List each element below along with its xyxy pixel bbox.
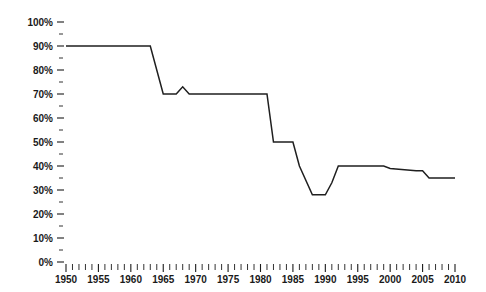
- y-axis-tick-label: 80%: [33, 65, 53, 76]
- x-axis-tick-label: 2005: [411, 274, 434, 285]
- y-axis-tick-label: 70%: [33, 89, 53, 100]
- y-axis-tick-label: 40%: [33, 161, 53, 172]
- x-axis-tick-label: 1990: [314, 274, 337, 285]
- x-axis-tick-label: 2010: [444, 274, 467, 285]
- y-axis-tick-labels: 100%90%80%70%60%50%40%30%20%10%0%: [27, 17, 53, 268]
- y-axis-tick-label: 30%: [33, 185, 53, 196]
- x-axis-tick-label: 1955: [87, 274, 110, 285]
- y-axis-tick-label: 60%: [33, 113, 53, 124]
- x-axis-tick-label: 1985: [282, 274, 305, 285]
- y-axis-tick-label: 20%: [33, 209, 53, 220]
- line-chart: 100%90%80%70%60%50%40%30%20%10%0% 195019…: [0, 0, 486, 292]
- data-series-group: [66, 46, 455, 195]
- x-axis-tick-label: 1960: [120, 274, 143, 285]
- chart-container: 100%90%80%70%60%50%40%30%20%10%0% 195019…: [0, 0, 486, 292]
- x-axis-tick-label: 1975: [217, 274, 240, 285]
- x-axis-tick-labels: 1950195519601965197019751980198519901995…: [55, 274, 467, 285]
- y-axis-tick-label: 10%: [33, 233, 53, 244]
- x-axis-tick-label: 1980: [249, 274, 272, 285]
- y-axis-tick-label: 90%: [33, 41, 53, 52]
- y-axis-tick-label: 100%: [27, 17, 53, 28]
- x-axis-tick-label: 1965: [152, 274, 175, 285]
- x-axis-tick-label: 1950: [55, 274, 78, 285]
- x-axis-tick-label: 2000: [379, 274, 402, 285]
- x-axis-tick-label: 1970: [185, 274, 208, 285]
- data-line: [66, 46, 455, 195]
- y-axis-tick-label: 0%: [39, 257, 54, 268]
- y-axis-tick-label: 50%: [33, 137, 53, 148]
- x-axis-tick-label: 1995: [347, 274, 370, 285]
